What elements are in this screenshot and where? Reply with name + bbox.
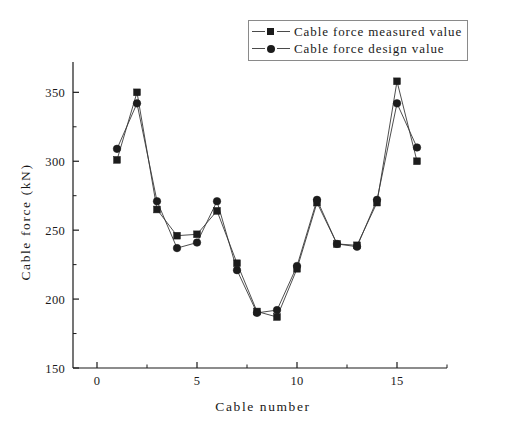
data-point-marker (154, 206, 161, 213)
y-tick-label: 300 (45, 155, 65, 169)
legend-item-measured: Cable force measured value (252, 23, 462, 40)
data-point-marker (194, 231, 201, 238)
data-point-marker (353, 243, 361, 251)
data-point-marker (113, 145, 121, 153)
x-tick-label: 5 (194, 374, 201, 388)
legend-item-design: Cable force design value (252, 40, 462, 57)
series-line (117, 81, 417, 317)
legend-label-measured: Cable force measured value (294, 24, 462, 40)
y-tick-label: 200 (45, 293, 65, 307)
data-point-marker (253, 309, 261, 317)
data-point-marker (213, 197, 221, 205)
x-tick-label: 10 (290, 374, 303, 388)
data-point-marker (313, 196, 321, 204)
data-point-marker (133, 100, 141, 108)
chart-figure: 051015150200250300350 Cable number Cable… (0, 0, 522, 427)
x-tick-label: 0 (94, 374, 101, 388)
data-point-marker (153, 197, 161, 205)
data-point-marker (373, 196, 381, 204)
series-line (117, 103, 417, 313)
data-point-marker (234, 260, 241, 267)
y-tick-label: 250 (45, 224, 65, 238)
data-point-marker (134, 89, 141, 96)
legend-marker-square-icon (252, 25, 290, 39)
legend: Cable force measured value Cable force d… (248, 20, 468, 61)
tick-labels: 051015150200250300350 (45, 86, 403, 388)
data-point-marker (333, 240, 341, 248)
data-point-marker (173, 244, 181, 252)
axes (73, 62, 447, 368)
axis-titles: Cable number Cable force (kN) (18, 163, 311, 414)
data-point-marker (394, 78, 401, 85)
y-axis-title: Cable force (kN) (18, 163, 33, 280)
data-point-marker (114, 156, 121, 163)
data-point-marker (174, 232, 181, 239)
data-point-marker (193, 239, 201, 247)
y-tick-label: 350 (45, 86, 65, 100)
data-point-marker (293, 262, 301, 270)
plot-canvas: 051015150200250300350 Cable number Cable… (0, 0, 522, 427)
data-point-marker (413, 144, 421, 152)
x-tick-label: 15 (390, 374, 403, 388)
legend-marker-circle-icon (252, 42, 290, 56)
data-point-marker (273, 306, 281, 314)
data-point-marker (214, 207, 221, 214)
y-tick-label: 150 (45, 362, 65, 376)
data-point-marker (233, 266, 241, 274)
data-series (113, 78, 421, 321)
data-point-marker (274, 314, 281, 321)
data-point-marker (414, 158, 421, 165)
x-axis-title: Cable number (215, 399, 310, 414)
legend-label-design: Cable force design value (294, 41, 444, 57)
data-point-marker (393, 100, 401, 108)
